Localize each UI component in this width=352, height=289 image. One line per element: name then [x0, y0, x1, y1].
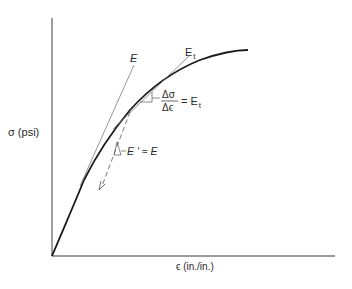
slope-equals-et: = Et	[181, 95, 202, 110]
initial-tangent-label: E	[130, 52, 138, 64]
slope-denominator: Δϵ	[162, 102, 174, 113]
initial-tangent-line	[80, 65, 134, 186]
unloading-line	[102, 112, 130, 186]
x-axis-label: ϵ (in./in.)	[176, 261, 214, 272]
stress-strain-diagram: E Et Δσ Δϵ = Et E ′ ≈ E σ (psi) ϵ (in./i…	[0, 0, 352, 289]
slope-numerator: Δσ	[162, 89, 176, 100]
unloading-modulus-label: E ′ ≈ E	[127, 145, 158, 157]
tangent-modulus-line	[113, 56, 189, 129]
unloading-arrow-icon	[99, 181, 105, 190]
slope-triangle-eprime	[114, 142, 121, 155]
y-axis-label: σ (psi)	[8, 126, 39, 138]
